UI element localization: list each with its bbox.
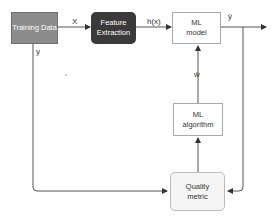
edge-label-w: ŵ — [194, 70, 200, 79]
feature-extraction-label: Feature Extraction — [91, 18, 136, 38]
node-ml-model: ML model — [172, 12, 221, 44]
edge-label-hx: h(x) — [147, 17, 161, 26]
edge-label-x: X — [72, 17, 77, 26]
training-data-label: Training Data — [12, 23, 57, 33]
node-quality-metric: Quality metric — [170, 172, 225, 211]
ml-model-label: ML model — [182, 18, 212, 38]
ml-algorithm-label: ML algorithm — [180, 110, 216, 130]
quality-metric-label: Quality metric — [181, 182, 215, 202]
node-ml-algorithm: ML algorithm — [173, 103, 223, 136]
node-feature-extraction: Feature Extraction — [91, 12, 136, 44]
edge-label-y: y — [36, 47, 40, 56]
node-training-data: Training Data — [11, 12, 58, 44]
edge-label-yhat: ŷ — [228, 12, 232, 21]
